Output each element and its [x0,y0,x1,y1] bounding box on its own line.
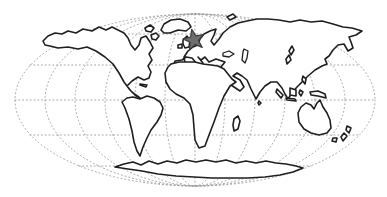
tasmania-outline [332,138,337,142]
new-zealand-south-outline [341,133,347,141]
greenland-outline [161,19,191,33]
arctic-island-outline [145,25,154,32]
sri-lanka-outline [258,101,261,105]
iceland-outline [151,33,159,40]
new-zealand-north-outline [346,126,351,133]
south-america-outline [122,96,163,156]
madagascar-outline [233,116,240,131]
continents [43,14,362,178]
australia-outline [298,100,331,135]
sulawesi-outline [299,90,303,96]
antarctica-outline [115,160,303,178]
java-outline [286,98,296,101]
world-map-figure [0,0,387,197]
sumatra-outline [276,89,283,98]
new-guinea-outline [310,91,326,98]
borneo-outline [290,88,296,96]
caribbean-islands-outline [140,84,147,87]
ireland-outline [178,44,182,48]
world-map [0,0,387,197]
